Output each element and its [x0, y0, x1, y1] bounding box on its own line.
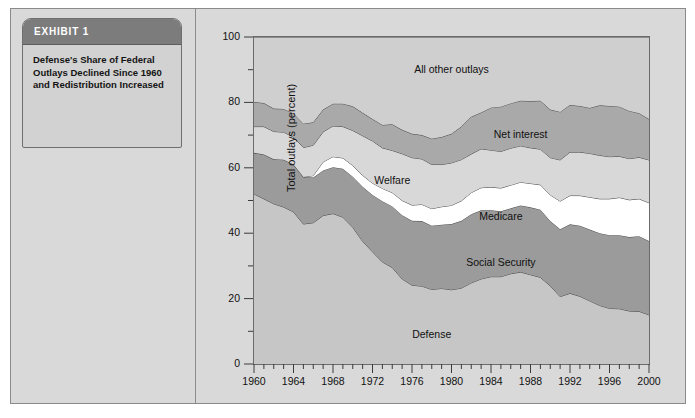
x-tick-label: 1964 — [277, 375, 311, 387]
y-axis-title: Total outlays (percent) — [285, 48, 297, 228]
y-tick-label: 40 — [214, 226, 240, 238]
series-label-medicare: Medicare — [479, 210, 522, 222]
x-tick-label: 1992 — [553, 375, 587, 387]
exhibit-callout-box: EXHIBIT 1 Defense's Share of Federal Out… — [22, 18, 182, 148]
exhibit-number-label: EXHIBIT 1 — [34, 26, 89, 37]
exhibit-figure: EXHIBIT 1 Defense's Share of Federal Out… — [0, 0, 695, 418]
x-tick-label: 1984 — [474, 375, 508, 387]
exhibit-header: EXHIBIT 1 — [23, 19, 181, 45]
series-label-welfare: Welfare — [374, 174, 410, 186]
x-tick-label: 2000 — [632, 375, 666, 387]
stacked-area-series — [254, 37, 649, 364]
chart-plot-frame — [253, 36, 650, 365]
x-tick-label: 1960 — [237, 375, 271, 387]
y-tick-label: 60 — [214, 161, 240, 173]
x-tick-label: 1980 — [435, 375, 469, 387]
x-tick-label: 1988 — [514, 375, 548, 387]
y-tick-label: 80 — [214, 95, 240, 107]
chart-plot-area: Total outlays (percent) — [253, 36, 650, 365]
series-label-net-interest: Net interest — [494, 128, 548, 140]
series-label-defense: Defense — [412, 328, 451, 340]
y-tick-label: 0 — [214, 357, 240, 369]
x-tick-label: 1972 — [356, 375, 390, 387]
series-label-all-other-outlays: All other outlays — [414, 63, 489, 75]
exhibit-caption: Defense's Share of Federal Outlays Decli… — [23, 45, 181, 92]
series-label-social-security: Social Security — [466, 256, 535, 268]
x-tick-label: 1996 — [593, 375, 627, 387]
y-tick-label: 100 — [214, 30, 240, 42]
y-tick-label: 20 — [214, 292, 240, 304]
panel-divider — [195, 9, 196, 403]
x-tick-label: 1976 — [395, 375, 429, 387]
x-tick-label: 1968 — [316, 375, 350, 387]
